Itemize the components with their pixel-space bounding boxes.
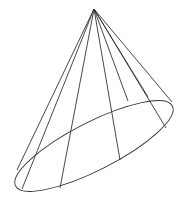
- generator-line: [94, 9, 120, 160]
- generator-line: [17, 9, 94, 170]
- cone-base-ellipse: [5, 85, 184, 204]
- generator-line: [94, 9, 128, 101]
- cone-diagram: [0, 0, 184, 204]
- generator-line: [22, 9, 94, 189]
- generator-line: [60, 9, 94, 188]
- generator-line: [94, 9, 166, 128]
- generator-lines: [17, 9, 172, 189]
- generator-line: [94, 9, 172, 102]
